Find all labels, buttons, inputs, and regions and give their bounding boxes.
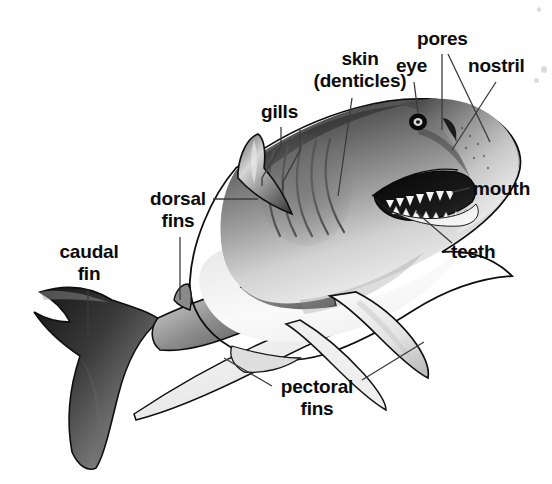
scan-speck	[537, 7, 541, 12]
label-dorsal-line2: fins	[140, 210, 216, 232]
shark-anatomy-diagram: skin (denticles) pores eye nostril gills…	[0, 0, 552, 484]
label-gills: gills	[261, 101, 298, 123]
label-eye: eye	[396, 55, 427, 77]
label-pectoral-line2: fins	[274, 398, 360, 420]
dorsal-fin-second	[174, 284, 191, 310]
scan-speck	[541, 66, 547, 73]
scan-speck	[534, 78, 539, 83]
caudal-fin-shape	[34, 287, 160, 469]
label-dorsal-line1: dorsal	[140, 188, 216, 210]
label-pectoral-line1: pectoral	[274, 376, 360, 398]
label-teeth: teeth	[451, 241, 495, 263]
eye-shape	[409, 114, 427, 131]
label-pectoral-fins: pectoral fins	[274, 376, 360, 420]
label-caudal-line1: caudal	[52, 241, 126, 263]
label-pores: pores	[417, 28, 468, 50]
label-dorsal-fins: dorsal fins	[140, 188, 216, 232]
label-caudal-fin: caudal fin	[52, 241, 126, 285]
label-mouth: mouth	[473, 178, 530, 200]
label-caudal-line2: fin	[52, 263, 126, 285]
label-nostril: nostril	[468, 55, 525, 77]
